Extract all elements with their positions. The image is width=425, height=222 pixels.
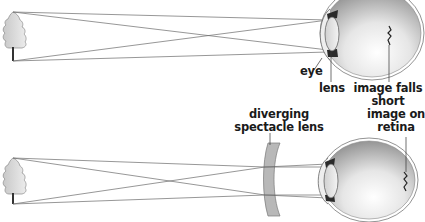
eye-top-icon (320, 0, 424, 80)
tree-object-icon (3, 12, 26, 61)
label-lens: lens (318, 82, 346, 95)
eye-bottom-icon (318, 138, 418, 222)
diverging-spectacle-lens-icon (264, 143, 281, 216)
top-diagram (3, 0, 424, 82)
tree-object-icon (3, 158, 26, 204)
diagram-canvas (0, 0, 425, 222)
bottom-diagram (3, 133, 418, 222)
label-retina: retina (366, 121, 425, 134)
label-eye: eye (300, 65, 323, 78)
myopia-diagram: eye lens image falls short diverging spe… (0, 0, 425, 222)
label-spectacle-lens: spectacle lens (226, 121, 332, 134)
